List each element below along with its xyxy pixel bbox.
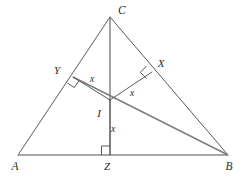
vertex-label-C: C	[118, 4, 126, 16]
point-label-X: X	[157, 57, 166, 69]
right-angle-at-Y-icon	[67, 81, 79, 88]
vertex-label-B: B	[225, 160, 232, 172]
edge-AC	[18, 17, 110, 155]
point-label-Y: Y	[54, 64, 62, 76]
triangle-figure-svg: C A B Y X I Z x x x	[0, 0, 246, 179]
length-label-IX: x	[129, 88, 135, 98]
edge-CB	[110, 17, 228, 155]
vertex-label-A: A	[10, 160, 19, 172]
right-angle-at-Z-icon	[102, 146, 111, 155]
length-label-IY: x	[89, 74, 95, 84]
geometry-diagram: C A B Y X I Z x x x	[0, 0, 246, 179]
length-label-IZ: x	[110, 124, 116, 134]
point-label-I: I	[96, 107, 102, 119]
point-label-Z: Z	[104, 160, 111, 172]
